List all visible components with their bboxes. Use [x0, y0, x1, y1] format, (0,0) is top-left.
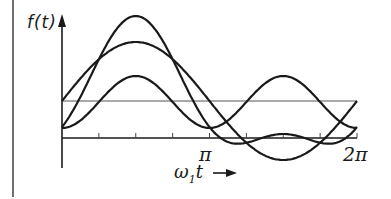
x-axis-label: ω1t	[174, 163, 203, 185]
y-axis-arrow-icon	[58, 14, 66, 27]
x-direction-arrow-icon	[226, 169, 237, 177]
time-variable: t	[196, 161, 203, 182]
tick-label-2pi: 2π	[343, 145, 368, 164]
omega-symbol: ω	[174, 161, 189, 182]
y-axis-label: f(t)	[27, 14, 57, 31]
omega-subscript: 1	[189, 173, 196, 186]
curve-resultant	[62, 16, 357, 144]
